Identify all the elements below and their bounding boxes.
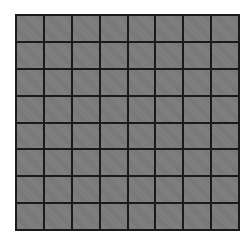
grid-cell <box>17 70 43 95</box>
grid-cell <box>156 204 182 229</box>
grid-cell <box>101 124 127 149</box>
grid-cell <box>17 97 43 122</box>
grid-cell <box>184 150 210 175</box>
grid-cell <box>101 150 127 175</box>
grid-cell <box>73 43 99 68</box>
grid-cell <box>73 177 99 202</box>
grid-cell <box>45 150 71 175</box>
grid-cell <box>156 97 182 122</box>
grid-cell <box>17 150 43 175</box>
grid-cell <box>184 177 210 202</box>
grid-cell <box>17 177 43 202</box>
grid-cell <box>101 204 127 229</box>
grid-cell <box>129 204 155 229</box>
grid-cell <box>212 177 238 202</box>
grid-cell <box>129 43 155 68</box>
grid-cell <box>156 177 182 202</box>
grid-cell <box>73 150 99 175</box>
grid-cell <box>101 70 127 95</box>
grid-cell <box>101 177 127 202</box>
grid-cell <box>73 16 99 41</box>
grid-cell <box>73 97 99 122</box>
grid-cell <box>129 177 155 202</box>
grid-cell <box>45 124 71 149</box>
grid-cell <box>101 43 127 68</box>
grid-cell <box>184 97 210 122</box>
grid-cell <box>45 43 71 68</box>
grid-cell <box>212 97 238 122</box>
grid-cell <box>184 43 210 68</box>
grid-cell <box>73 204 99 229</box>
grid-cell <box>212 16 238 41</box>
grid-cell <box>45 70 71 95</box>
grid-cell <box>17 124 43 149</box>
grid-cell <box>184 70 210 95</box>
grid-cell <box>129 124 155 149</box>
grid-cell <box>73 124 99 149</box>
grid-cell <box>156 43 182 68</box>
grid-cell <box>212 124 238 149</box>
grid-cell <box>73 70 99 95</box>
grid-cell <box>17 16 43 41</box>
grid-cell <box>156 124 182 149</box>
grid-cell <box>17 204 43 229</box>
grid-cell <box>212 150 238 175</box>
grid-cell <box>184 124 210 149</box>
grid-cell <box>129 150 155 175</box>
grid-cell <box>212 204 238 229</box>
grid-cell <box>45 97 71 122</box>
grid-cell <box>101 16 127 41</box>
grid-cell <box>156 16 182 41</box>
grid-cell <box>17 43 43 68</box>
grid-cell <box>45 204 71 229</box>
grid-cell <box>129 16 155 41</box>
grid-cell <box>184 204 210 229</box>
grid-board <box>15 14 240 231</box>
grid-cell <box>45 16 71 41</box>
grid-cell <box>212 70 238 95</box>
grid-cell <box>129 70 155 95</box>
grid-cell <box>129 97 155 122</box>
grid-cell <box>45 177 71 202</box>
grid-cell <box>156 70 182 95</box>
grid-cell <box>184 16 210 41</box>
grid-cell <box>156 150 182 175</box>
grid-cell <box>212 43 238 68</box>
grid-cell <box>101 97 127 122</box>
